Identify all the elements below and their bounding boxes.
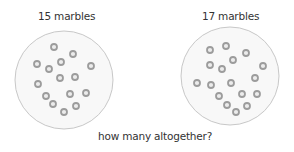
marble-icon [58, 59, 64, 65]
marble-icon [67, 91, 73, 97]
marble-icon [224, 102, 230, 108]
marble-icon [208, 82, 214, 88]
group-label-right: 17 marbles [202, 10, 259, 22]
marble-icon [70, 51, 76, 57]
marble-icon [57, 75, 63, 81]
marble-icon [51, 44, 57, 50]
marble-icon [46, 66, 52, 72]
marble-icon [207, 62, 213, 68]
marble-icon [61, 109, 67, 115]
marble-icon [223, 43, 229, 49]
marble-icon [252, 75, 258, 81]
marble-icon [72, 74, 78, 80]
marble-icon [260, 63, 266, 69]
marble-group-right [181, 27, 279, 125]
marble-icon [83, 90, 89, 96]
marble-icon [219, 66, 225, 72]
question-text: how many altogether? [98, 130, 212, 142]
marble-icon [34, 61, 40, 67]
marble-icon [35, 81, 41, 87]
marble-icon [230, 57, 236, 63]
marble-icon [216, 93, 222, 99]
marble-icon [194, 80, 200, 86]
marble-icon [73, 103, 79, 109]
marble-icon [228, 80, 234, 86]
marble-icon [244, 103, 250, 109]
marble-icon [88, 63, 94, 69]
group-circle [181, 27, 279, 125]
marble-icon [239, 91, 245, 97]
marble-icon [207, 47, 213, 53]
marble-icon [254, 91, 260, 97]
marble-icon [243, 50, 249, 56]
marble-icon [43, 93, 49, 99]
marble-group-left [15, 31, 113, 129]
marble-icon [50, 101, 56, 107]
marble-icon [233, 109, 239, 115]
group-label-left: 15 marbles [38, 10, 95, 22]
